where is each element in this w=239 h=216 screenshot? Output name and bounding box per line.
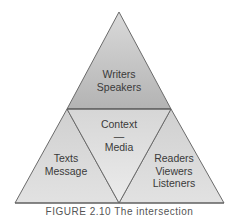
center-line-3: Media (89, 141, 149, 154)
center-section-label: Context — Media (89, 118, 149, 153)
center-line-1: Context (89, 118, 149, 131)
right-line-2: Viewers (144, 165, 204, 178)
center-line-2: — (89, 131, 149, 141)
left-line-2: Message (34, 165, 98, 178)
top-triangle (67, 12, 171, 109)
left-section-label: Texts Message (34, 152, 98, 177)
left-line-1: Texts (34, 152, 98, 165)
top-line-2: Speakers (84, 81, 154, 94)
top-line-1: Writers (84, 68, 154, 81)
top-section-label: Writers Speakers (84, 68, 154, 93)
right-section-label: Readers Viewers Listeners (144, 152, 204, 190)
figure-caption: FIGURE 2.10 The intersection (0, 206, 239, 216)
right-line-3: Listeners (144, 177, 204, 190)
right-line-1: Readers (144, 152, 204, 165)
